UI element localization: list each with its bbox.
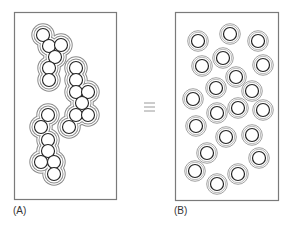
dispersed-particle — [186, 116, 207, 137]
panel-a-label: (A) — [13, 205, 26, 216]
equivalence-symbol — [144, 103, 155, 111]
particle — [230, 71, 243, 84]
particle — [257, 104, 270, 117]
particle — [35, 121, 48, 134]
particle — [70, 109, 83, 122]
panel-b — [176, 13, 279, 201]
particle — [253, 152, 266, 165]
dispersed-particle — [242, 81, 263, 102]
dispersed-particle — [207, 103, 228, 124]
particle — [55, 39, 68, 52]
figure — [0, 0, 292, 227]
dispersed-particle — [220, 24, 241, 45]
particle — [190, 120, 203, 133]
particle — [246, 129, 259, 142]
particle — [187, 93, 200, 106]
dispersed-particle — [192, 56, 213, 77]
particle — [189, 165, 202, 178]
dispersed-particle — [183, 89, 204, 110]
particle — [42, 109, 55, 122]
particle — [192, 35, 205, 48]
particle — [70, 62, 83, 75]
dispersed-particle — [249, 148, 270, 169]
panel-b-label: (B) — [174, 205, 187, 216]
particle — [232, 102, 245, 115]
dispersed-particle — [242, 125, 263, 146]
particle — [211, 107, 224, 120]
dispersed-particle — [228, 98, 249, 119]
particle — [201, 147, 214, 160]
dispersed-particle — [253, 55, 274, 76]
dispersed-particle — [206, 78, 227, 99]
particle — [224, 28, 237, 41]
particle — [246, 85, 259, 98]
dispersed-particle — [226, 67, 247, 88]
particle — [70, 74, 83, 87]
particle — [220, 131, 233, 144]
particle-cluster — [29, 103, 65, 185]
particle — [43, 74, 56, 87]
dispersed-particle — [253, 100, 274, 121]
particle-cluster — [57, 56, 99, 138]
dispersed-particle — [248, 31, 269, 52]
particle — [217, 52, 230, 65]
dispersed-particle — [216, 127, 237, 148]
particle — [82, 109, 95, 122]
dispersed-particle — [213, 48, 234, 69]
particle — [232, 168, 245, 181]
particle — [211, 178, 224, 191]
particle — [48, 168, 61, 181]
particle — [252, 35, 265, 48]
dispersed-particle — [188, 31, 209, 52]
dispersed-particle — [207, 174, 228, 195]
particle — [48, 156, 61, 169]
particle — [35, 156, 48, 169]
panel-a — [15, 13, 117, 200]
particle — [76, 97, 89, 110]
dispersed-particle — [185, 161, 206, 182]
dispersed-particle — [228, 164, 249, 185]
particle — [196, 60, 209, 73]
particle — [63, 121, 76, 134]
particle — [210, 82, 223, 95]
dispersed-particle — [197, 143, 218, 164]
particle — [257, 59, 270, 72]
particle — [43, 62, 56, 75]
